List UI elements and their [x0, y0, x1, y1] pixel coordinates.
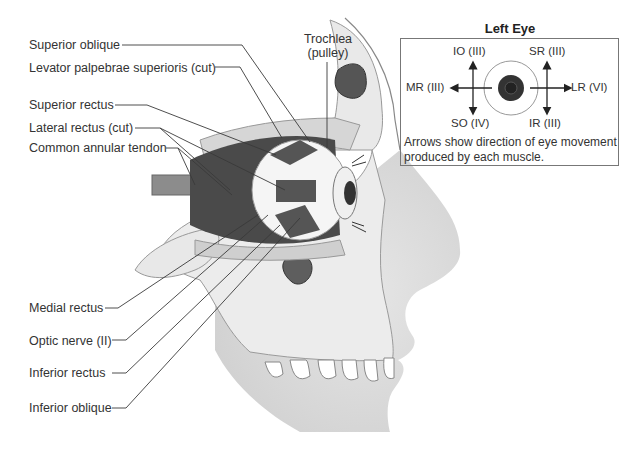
label-superior-oblique: Superior oblique [29, 38, 120, 52]
label-io: IO (III) [453, 45, 486, 57]
trochlea-line2: (pulley) [300, 46, 356, 60]
label-sr: SR (III) [529, 45, 565, 57]
label-so: SO (IV) [451, 117, 489, 129]
lateral-rectus-band [276, 180, 316, 202]
inset-title: Left Eye [455, 21, 565, 36]
inset-caption: Arrows show direction of eye movement pr… [404, 135, 618, 165]
label-inferior-rectus: Inferior rectus [29, 366, 105, 380]
label-ir: IR (III) [529, 117, 561, 129]
label-mr: MR (III) [406, 81, 444, 93]
label-trochlea: Trochlea (pulley) [300, 32, 356, 60]
label-medial-rectus: Medial rectus [29, 301, 103, 315]
label-superior-rectus: Superior rectus [29, 98, 114, 112]
label-optic-nerve: Optic nerve (II) [29, 334, 112, 348]
label-inferior-oblique: Inferior oblique [29, 401, 112, 415]
eye-muscle-diagram: Superior oblique Levator palpebrae super… [0, 0, 640, 449]
frontal-sinus [335, 64, 366, 98]
label-lr: LR (VI) [571, 81, 607, 93]
label-lateral-rectus: Lateral rectus (cut) [29, 121, 133, 135]
trochlea-line1: Trochlea [300, 32, 356, 46]
label-levator-palpebrae: Levator palpebrae superioris (cut) [29, 61, 216, 75]
label-common-annular-tendon: Common annular tendon [29, 141, 167, 155]
